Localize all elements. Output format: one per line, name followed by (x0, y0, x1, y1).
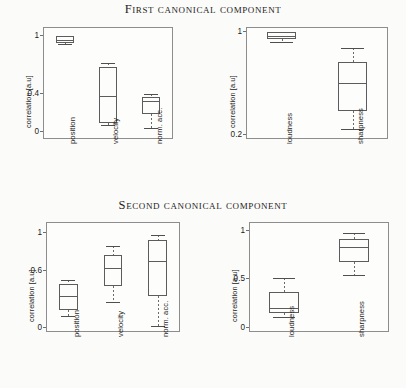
y-tick-label: 1 (216, 26, 242, 35)
y-axis-label: correlation [a.u] (27, 269, 36, 322)
box-median (339, 247, 368, 248)
y-tick-label: 0.2 (216, 129, 242, 138)
y-axis-label: correlation [a.u] (228, 75, 237, 128)
whisker-upper (284, 278, 285, 292)
whisker-lower (353, 111, 354, 129)
box-median (56, 40, 74, 41)
x-tick-label: velocity (116, 311, 125, 337)
figure-canonical-components: First canonical component Second canonic… (0, 0, 406, 388)
box-median (104, 268, 123, 269)
whisker-cap-upper (144, 94, 158, 95)
y-tick-label: 0 (16, 323, 42, 332)
box-median (338, 83, 368, 84)
y-tick-label: 0 (13, 127, 39, 136)
box-iqr (104, 255, 123, 286)
whisker-cap-lower (270, 42, 293, 43)
box-median (59, 296, 78, 297)
y-tick-mark (40, 35, 43, 36)
x-tick-label: position (68, 117, 77, 144)
whisker-cap-upper (341, 48, 364, 49)
x-tick-label: norm. acc. (161, 301, 170, 337)
whisker-cap-upper (101, 63, 115, 64)
y-tick-mark (246, 327, 249, 328)
whisker-upper (113, 246, 114, 255)
y-tick-label: 0 (219, 323, 245, 332)
panel-title-second: Second canonical component (0, 198, 406, 213)
whisker-cap-lower (58, 44, 72, 45)
y-tick-label: 1 (16, 227, 42, 236)
y-tick-mark (40, 131, 43, 132)
y-tick-label: 1 (13, 30, 39, 39)
whisker-cap-upper (106, 246, 120, 247)
y-tick-mark (243, 134, 246, 135)
x-tick-label: norm. acc. (155, 108, 164, 144)
y-tick-label: 0.5 (219, 274, 245, 283)
y-tick-mark (246, 230, 249, 231)
box-median (142, 101, 160, 102)
whisker-cap-lower (106, 302, 120, 303)
y-tick-label: 0.6 (16, 265, 42, 274)
box-iqr (148, 240, 167, 296)
x-tick-label: position (72, 310, 81, 337)
box-median (148, 261, 167, 262)
x-tick-label: velocity (111, 118, 120, 144)
whisker-lower (151, 114, 152, 128)
box-median (99, 96, 117, 97)
whisker-upper (353, 48, 354, 62)
whisker-lower (158, 296, 159, 326)
whisker-lower (113, 286, 114, 302)
whisker-cap-upper (61, 280, 75, 281)
whisker-cap-upper (273, 278, 295, 279)
whisker-lower (354, 262, 355, 275)
y-tick-mark (43, 232, 46, 233)
box-iqr (338, 62, 368, 111)
box-iqr (339, 239, 368, 262)
whisker-cap-lower (343, 275, 365, 276)
x-tick-label: sharpness (357, 301, 366, 337)
box-median (267, 36, 297, 37)
panel-title-first: First canonical component (0, 2, 406, 17)
whisker-cap-upper (151, 235, 165, 236)
y-tick-mark (40, 93, 43, 94)
x-tick-label: loudness (285, 113, 294, 144)
y-tick-mark (43, 327, 46, 328)
y-tick-label: 1 (219, 225, 245, 234)
x-tick-label: sharpness (356, 108, 365, 144)
x-tick-label: loudness (287, 306, 296, 337)
y-tick-label: 0.4 (13, 88, 39, 97)
y-tick-mark (43, 270, 46, 271)
y-tick-mark (243, 31, 246, 32)
y-tick-mark (246, 278, 249, 279)
whisker-cap-upper (343, 233, 365, 234)
y-axis-label: correlation [a.u] (24, 75, 33, 128)
